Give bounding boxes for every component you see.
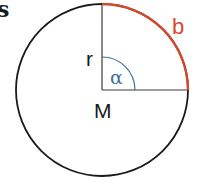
diagram-canvas bbox=[0, 0, 201, 189]
cropped-heading-letter: s bbox=[0, 0, 9, 20]
circle-arc-diagram: s r α M b bbox=[0, 0, 201, 189]
radius-label: r bbox=[86, 48, 93, 69]
arc-label: b bbox=[172, 16, 184, 38]
center-label: M bbox=[94, 100, 112, 121]
angle-label: α bbox=[110, 68, 123, 87]
